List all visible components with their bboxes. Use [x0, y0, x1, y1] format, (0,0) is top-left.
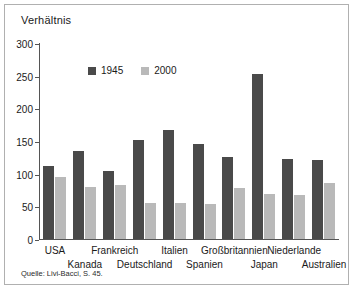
x-tick-label-Großbritannien: Großbritannien	[201, 245, 268, 256]
bar-2000-Spanien	[205, 204, 216, 239]
bar-group	[133, 43, 156, 239]
bar-1945-Spanien	[193, 144, 204, 239]
bar-1945-Italien	[163, 130, 174, 239]
bar-2000-Australien	[324, 183, 335, 239]
bar-2000-Niederlande	[294, 195, 305, 239]
x-tick-label-Italien: Italien	[161, 245, 188, 256]
source-note: Quelle: Livi-Bacci, S. 45.	[21, 269, 103, 278]
bar-group	[193, 43, 216, 239]
y-tick-mark	[35, 44, 39, 45]
y-tick-mark	[35, 207, 39, 208]
y-tick-label: 150	[16, 137, 33, 148]
bar-group	[312, 43, 335, 239]
y-tick-label: 100	[16, 169, 33, 180]
bar-group	[43, 43, 66, 239]
bar-group	[252, 43, 275, 239]
bar-group	[73, 43, 96, 239]
bar-2000-USA	[55, 177, 66, 239]
bar-1945-Niederlande	[282, 159, 293, 239]
x-tick-label-Niederlande: Niederlande	[267, 245, 321, 256]
bar-1945-Großbritannien	[222, 157, 233, 239]
bar-1945-Deutschland	[133, 140, 144, 239]
y-tick-label: 250	[16, 71, 33, 82]
x-axis-line	[39, 239, 339, 240]
chart-figure: Verhältnis 1945 2000 050100150200250300 …	[4, 4, 349, 285]
y-tick-mark	[35, 109, 39, 110]
y-tick-label: 200	[16, 104, 33, 115]
bar-1945-Australien	[312, 160, 323, 239]
bar-2000-Italien	[175, 203, 186, 239]
y-tick-mark	[35, 240, 39, 241]
bar-group	[163, 43, 186, 239]
bar-group	[103, 43, 126, 239]
bar-2000-Großbritannien	[234, 188, 245, 239]
y-tick-label: 50	[22, 202, 33, 213]
chart-title: Verhältnis	[21, 14, 71, 26]
x-tick-label-Japan: Japan	[251, 259, 278, 270]
bar-1945-Kanada	[73, 151, 84, 239]
y-tick-mark	[35, 142, 39, 143]
x-tick-label-Frankreich: Frankreich	[91, 245, 138, 256]
bar-1945-Japan	[252, 74, 263, 239]
y-tick-mark	[35, 77, 39, 78]
y-tick-label: 0	[27, 235, 33, 246]
x-tick-label-Spanien: Spanien	[186, 259, 223, 270]
bar-1945-USA	[43, 166, 54, 239]
bar-series-container	[40, 43, 339, 239]
bar-1945-Frankreich	[103, 171, 114, 239]
bar-2000-Deutschland	[145, 203, 156, 239]
bar-2000-Kanada	[85, 187, 96, 239]
plot-area: 050100150200250300	[39, 43, 339, 240]
bar-2000-Frankreich	[115, 185, 126, 239]
bar-group	[222, 43, 245, 239]
x-tick-label-Deutschland: Deutschland	[117, 259, 173, 270]
x-tick-label-USA: USA	[45, 245, 66, 256]
x-tick-label-Australien: Australien	[302, 259, 346, 270]
bar-group	[282, 43, 305, 239]
y-tick-label: 300	[16, 39, 33, 50]
y-tick-mark	[35, 175, 39, 176]
bar-2000-Japan	[264, 194, 275, 239]
